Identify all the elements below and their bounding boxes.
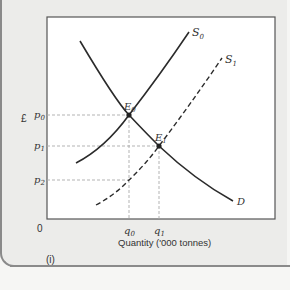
panel-label: (i) xyxy=(46,254,55,265)
p2-label: p2 xyxy=(34,174,45,187)
origin-label: 0 xyxy=(37,223,43,234)
d-label: D xyxy=(236,196,245,207)
equilibrium-point-e1 xyxy=(156,143,161,148)
supply-demand-diagram: S0 S1 D E0 E1 £ p0 p1 p2 0 q0 q1 Quantit… xyxy=(0,0,290,290)
plot-frame xyxy=(47,17,275,219)
p0-label: p0 xyxy=(34,109,45,122)
x-axis-label: Quantity ('000 tonnes) xyxy=(118,237,211,248)
y-axis-label: £ xyxy=(21,113,27,124)
p1-label: p1 xyxy=(34,140,45,153)
